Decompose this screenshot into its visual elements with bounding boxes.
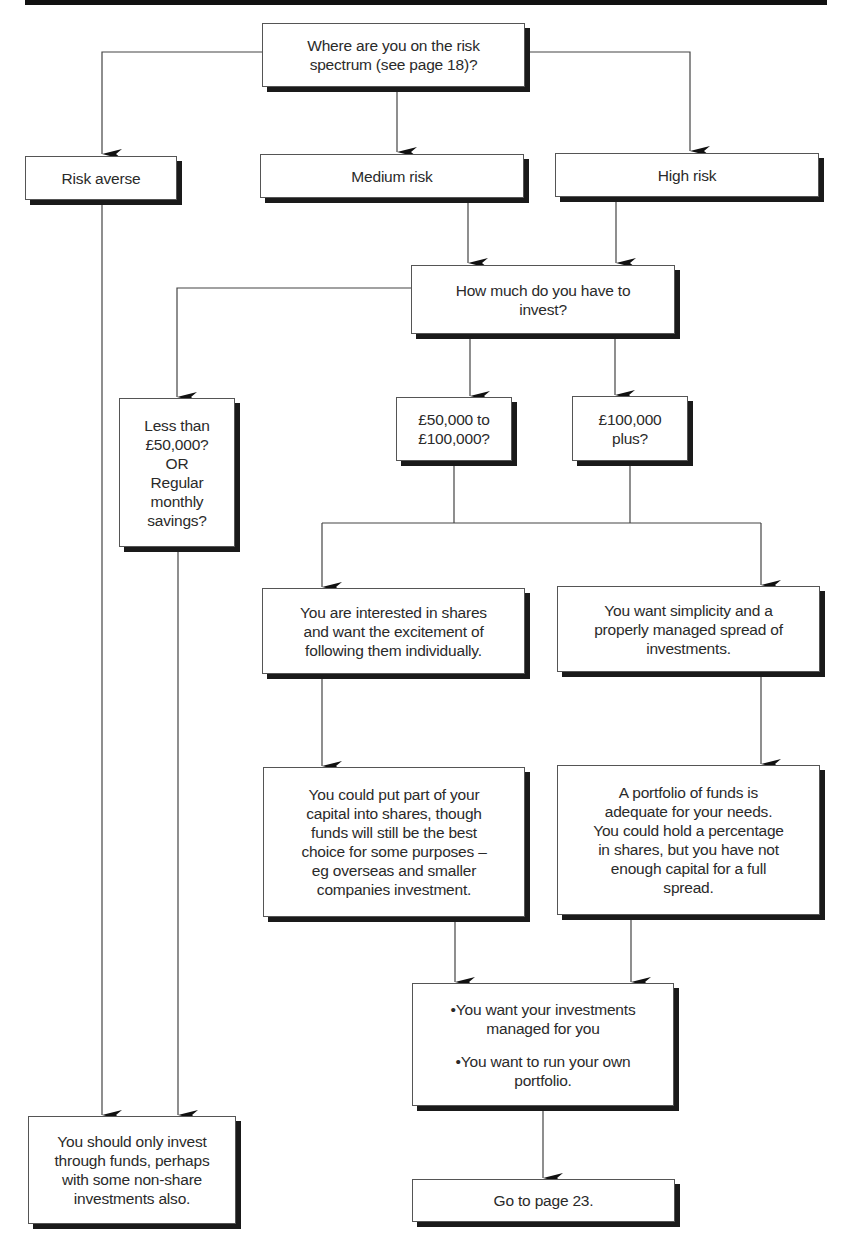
funds-only-box: You should only invest through funds, pe…	[28, 1116, 236, 1224]
amount-less-than-50k-box: Less than £50,000? OR Regular monthly sa…	[119, 398, 235, 547]
amount-50k-100k-box: £50,000 to £100,000?	[396, 397, 512, 461]
risk-averse-label: Risk averse	[62, 169, 141, 188]
start-question-text: Where are you on the risk spectrum (see …	[307, 36, 479, 74]
amount-question-text: How much do you have to invest?	[456, 281, 631, 319]
advice-funds-portfolio-box: A portfolio of funds is adequate for you…	[557, 765, 820, 915]
high-risk-label: High risk	[658, 166, 717, 185]
amount-100k-plus-text: £100,000 plus?	[598, 410, 661, 448]
preference-simplicity-text: You want simplicity and a properly manag…	[594, 601, 783, 658]
options-box: •You want your investments managed for y…	[412, 983, 674, 1106]
option-managed: •You want your investments managed for y…	[451, 1000, 636, 1038]
start-question-box: Where are you on the risk spectrum (see …	[262, 23, 525, 87]
advice-shares-text: You could put part of your capital into …	[301, 785, 486, 899]
high-risk-box: High risk	[555, 153, 819, 197]
option-run-own: •You want to run your own portfolio.	[456, 1052, 631, 1090]
preference-shares-text: You are interested in shares and want th…	[300, 603, 487, 660]
goto-page-box: Go to page 23.	[412, 1179, 675, 1222]
amount-less-than-50k-text: Less than £50,000? OR Regular monthly sa…	[144, 416, 209, 530]
preference-shares-box: You are interested in shares and want th…	[262, 588, 525, 674]
funds-only-text: You should only invest through funds, pe…	[54, 1132, 209, 1208]
amount-question-box: How much do you have to invest?	[411, 265, 675, 334]
advice-shares-box: You could put part of your capital into …	[263, 767, 525, 917]
risk-averse-box: Risk averse	[25, 156, 177, 200]
medium-risk-label: Medium risk	[351, 167, 432, 186]
advice-funds-portfolio-text: A portfolio of funds is adequate for you…	[593, 783, 784, 897]
medium-risk-box: Medium risk	[260, 154, 524, 198]
preference-simplicity-box: You want simplicity and a properly manag…	[557, 586, 820, 672]
goto-page-text: Go to page 23.	[494, 1191, 594, 1210]
amount-50k-100k-text: £50,000 to £100,000?	[418, 410, 489, 448]
amount-100k-plus-box: £100,000 plus?	[572, 396, 688, 461]
